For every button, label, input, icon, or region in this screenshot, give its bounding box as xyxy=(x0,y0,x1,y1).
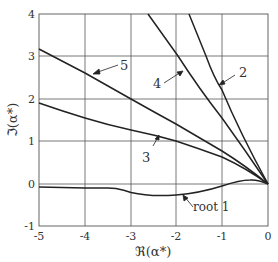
annotation-3: 3 xyxy=(142,150,150,165)
x-tick: -5 xyxy=(34,230,45,243)
x-tick: 0 xyxy=(265,230,272,243)
x-tick: -1 xyxy=(217,230,228,243)
grid xyxy=(39,14,268,226)
annotation-5: 5 xyxy=(120,58,128,73)
plot-frame xyxy=(39,14,268,226)
y-axis-label: ℑ(α*) xyxy=(5,103,20,137)
y-tick-labels: 4 3 2 1 0 -1 xyxy=(24,8,35,233)
x-tick: -4 xyxy=(80,230,91,243)
y-tick: 1 xyxy=(28,135,35,148)
y-tick: 3 xyxy=(28,50,35,63)
y-tick: 0 xyxy=(28,178,35,191)
y-tick: 4 xyxy=(28,8,35,21)
y-tick: 2 xyxy=(28,93,35,106)
annotation-leaders xyxy=(93,65,235,207)
x-tick: -3 xyxy=(126,230,137,243)
curve-root-1 xyxy=(39,180,268,196)
annotation-4: 4 xyxy=(153,76,161,91)
curves xyxy=(39,14,268,196)
chart: 5 4 2 3 root 1 4 3 2 1 0 -1 -5 -4 -3 -2 … xyxy=(0,0,278,262)
x-tick: -2 xyxy=(171,230,182,243)
annotation-root-1: root 1 xyxy=(193,200,229,214)
x-tick-labels: -5 -4 -3 -2 -1 0 xyxy=(34,230,272,243)
annotation-2: 2 xyxy=(239,65,247,80)
x-axis-label: ℜ(α*) xyxy=(135,244,171,259)
